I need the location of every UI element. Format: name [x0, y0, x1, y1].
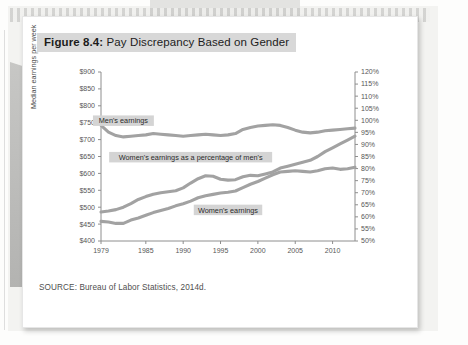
svg-text:$650: $650 [79, 153, 95, 160]
figure-title-band: Figure 8.4: Pay Discrepancy Based on Gen… [37, 33, 296, 52]
svg-text:90%: 90% [361, 141, 375, 148]
figure-source: SOURCE: Bureau of Labor Statistics, 2014… [39, 283, 206, 292]
svg-text:$800: $800 [79, 102, 95, 109]
svg-text:$850: $850 [79, 85, 95, 92]
svg-text:70%: 70% [361, 189, 375, 196]
svg-text:1995: 1995 [213, 247, 229, 254]
svg-text:120%: 120% [361, 68, 379, 75]
svg-text:Men's earnings: Men's earnings [99, 116, 149, 125]
svg-text:60%: 60% [361, 213, 375, 220]
svg-text:100%: 100% [361, 117, 379, 124]
svg-text:$700: $700 [79, 136, 95, 143]
figure-card: Figure 8.4: Pay Discrepancy Based on Gen… [22, 16, 418, 328]
figure-number: Figure 8.4: [44, 36, 103, 48]
y-axis-title: Median earnings per week [29, 25, 38, 109]
figure-title-text: Pay Discrepancy Based on Gender [107, 36, 290, 48]
svg-text:75%: 75% [361, 177, 375, 184]
svg-text:$400: $400 [79, 237, 95, 244]
svg-text:1985: 1985 [138, 247, 154, 254]
svg-text:2005: 2005 [287, 247, 303, 254]
svg-text:1990: 1990 [175, 247, 191, 254]
svg-text:Women's earnings: Women's earnings [198, 206, 258, 215]
svg-text:$750: $750 [79, 119, 95, 126]
svg-text:55%: 55% [361, 225, 375, 232]
svg-text:85%: 85% [361, 153, 375, 160]
svg-text:Women's earnings as a percenta: Women's earnings as a percentage of men'… [119, 153, 263, 162]
svg-text:$550: $550 [79, 187, 95, 194]
svg-text:$500: $500 [79, 204, 95, 211]
svg-text:105%: 105% [361, 105, 379, 112]
background-left-rule [4, 30, 5, 330]
chart-plot-area: $400$450$500$550$600$650$700$750$800$850… [55, 63, 405, 273]
series-annotation: Women's earnings as a percentage of men'… [109, 152, 272, 163]
series-annotation: Women's earnings [194, 205, 262, 216]
svg-text:$900: $900 [79, 68, 95, 75]
series-line-men-s-earnings [101, 125, 355, 137]
svg-text:115%: 115% [361, 80, 378, 87]
line-chart: $400$450$500$550$600$650$700$750$800$850… [55, 63, 405, 273]
svg-text:80%: 80% [361, 165, 375, 172]
series-annotation: Men's earnings [93, 115, 154, 126]
svg-text:$450: $450 [79, 221, 95, 228]
svg-text:$600: $600 [79, 170, 95, 177]
svg-text:110%: 110% [361, 93, 378, 100]
svg-text:2010: 2010 [325, 247, 341, 254]
svg-text:50%: 50% [361, 237, 375, 244]
svg-text:1979: 1979 [93, 247, 109, 254]
svg-text:95%: 95% [361, 129, 375, 136]
svg-text:2000: 2000 [250, 247, 266, 254]
series-line-women-s-earnings-as-a-percentage-of-men-s [101, 136, 355, 212]
figure-title: Figure 8.4: Pay Discrepancy Based on Gen… [37, 32, 296, 52]
svg-text:65%: 65% [361, 201, 375, 208]
